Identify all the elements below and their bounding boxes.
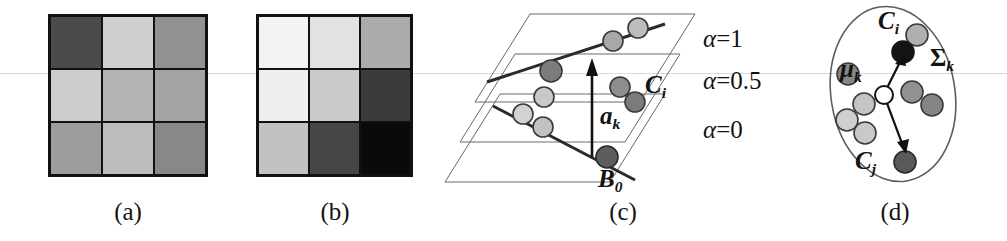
sigma-symbol: Σ	[930, 44, 946, 71]
alpha-value: 0	[730, 116, 743, 143]
label-alpha-1: α=1	[703, 26, 743, 51]
label-ak: ak	[600, 103, 620, 131]
grid-cell-r3-c3	[361, 123, 410, 174]
label-ci-d: Ci	[878, 8, 899, 36]
grid-cell-r2-c1	[259, 70, 308, 121]
grid-cell-r2-c2	[310, 70, 359, 121]
sigma-subscript: k	[946, 57, 954, 74]
grayscale-grid-b	[256, 14, 413, 177]
alpha-equals: =	[716, 116, 730, 143]
grid-cell-r1-c3	[155, 17, 205, 68]
label-ci-c: Ci	[645, 72, 666, 100]
caption-a: (a)	[78, 198, 178, 226]
grid-cell-r3-c3	[155, 123, 205, 174]
label-sigma-k: Σk	[930, 45, 954, 73]
grid-cell-r2-c3	[361, 70, 410, 121]
alpha-symbol: α	[703, 116, 716, 143]
grid-cell-r3-c2	[310, 123, 359, 174]
mu-symbol: μ	[840, 55, 854, 82]
ak-symbol: a	[600, 102, 613, 129]
data-point	[854, 122, 876, 144]
figure-container: (a) (b)	[0, 0, 1007, 241]
cj-subscript: j	[872, 160, 876, 177]
caption-d: (d)	[845, 198, 945, 226]
data-point	[853, 93, 875, 115]
data-point	[540, 60, 562, 82]
data-point	[603, 31, 623, 51]
mean-marker	[875, 86, 893, 104]
alpha-equals: =	[716, 25, 730, 52]
grid-cell-r1-c1	[259, 17, 308, 68]
grid-cell-r3-c1	[51, 123, 101, 174]
data-point	[901, 81, 923, 103]
mu-subscript: k	[854, 68, 862, 85]
data-point	[610, 77, 630, 97]
data-point	[625, 92, 645, 112]
grid-cell-r1-c1	[51, 17, 101, 68]
ci-subscript: i	[662, 84, 666, 101]
data-point	[921, 94, 943, 116]
vector-ak-arrowhead	[586, 58, 598, 76]
label-alpha-0: α=0	[703, 117, 743, 142]
data-point-cj	[894, 151, 916, 173]
label-cj-d: Cj	[855, 148, 876, 176]
alpha-value: 1	[730, 25, 743, 52]
panel-c-graphic	[455, 2, 795, 202]
grid-cell-r1-c3	[361, 17, 410, 68]
grid-cell-r1-c2	[310, 17, 359, 68]
data-point	[513, 104, 533, 124]
alpha-equals: =	[716, 67, 730, 94]
ci-symbol: C	[878, 7, 895, 34]
grid-cell-r2-c1	[51, 70, 101, 121]
caption-b: (b)	[285, 198, 385, 226]
b0-symbol: B	[598, 165, 615, 192]
cj-symbol: C	[855, 147, 872, 174]
data-point	[533, 117, 553, 137]
alpha-symbol: α	[703, 67, 716, 94]
grayscale-grid-a	[48, 14, 208, 177]
grid-cell-r3-c2	[103, 123, 153, 174]
ak-subscript: k	[613, 115, 621, 132]
grid-cell-r1-c2	[103, 17, 153, 68]
grid-cell-r2-c2	[103, 70, 153, 121]
label-alpha-05: α=0.5	[703, 68, 761, 93]
data-point	[628, 18, 648, 38]
b0-subscript: 0	[615, 178, 623, 195]
alpha-value: 0.5	[730, 67, 761, 94]
grid-cell-r2-c3	[155, 70, 205, 121]
ci-symbol: C	[645, 71, 662, 98]
grid-cell-r3-c1	[259, 123, 308, 174]
label-mu-k: μk	[840, 56, 862, 84]
caption-c: (c)	[573, 198, 673, 226]
data-point	[534, 87, 554, 107]
arrow-mean-to-cj-shaft	[885, 98, 903, 146]
label-b0: B0	[598, 166, 622, 194]
alpha-symbol: α	[703, 25, 716, 52]
ci-subscript: i	[895, 20, 899, 37]
